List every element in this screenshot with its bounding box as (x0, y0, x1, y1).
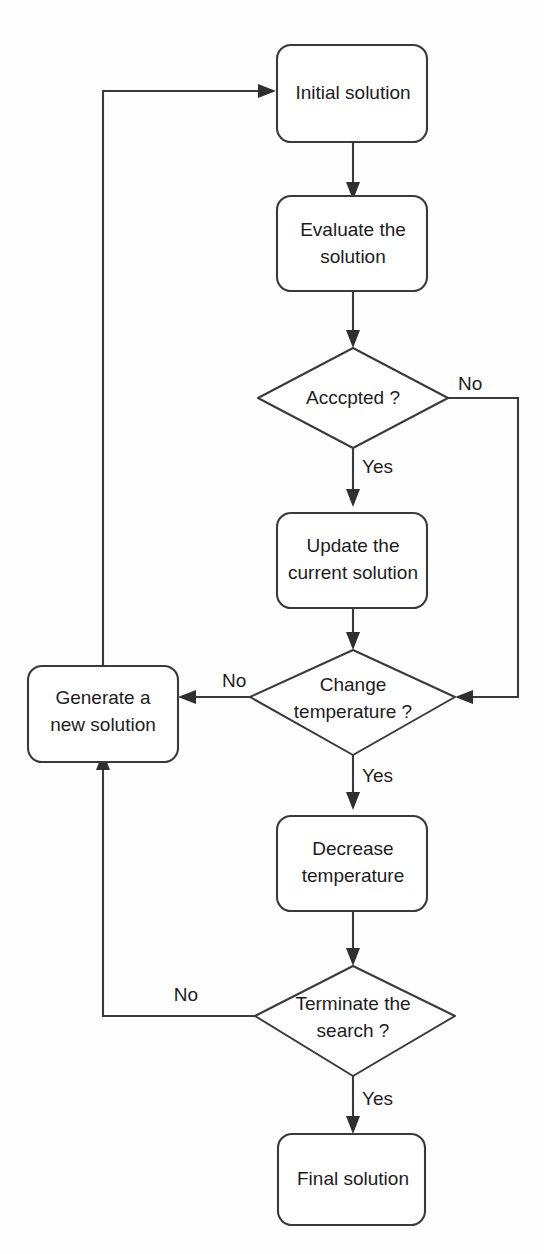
arrowhead-icon (178, 690, 196, 704)
edge-initial-to-evaluate (346, 142, 360, 200)
final-solution-label: Final solution (297, 1168, 409, 1189)
arrowhead-icon (346, 489, 360, 507)
change-temperature-decision-label-line1: Change (320, 674, 387, 695)
evaluate-solution-label-line2: solution (320, 246, 386, 267)
edge-evaluate-to-accepted (346, 291, 360, 348)
accepted-decision-label: Acccpted ? (306, 387, 400, 408)
update-current-solution-box[interactable] (277, 513, 427, 608)
edge-change-temperature-no-to-generate (178, 690, 250, 704)
edge-label-terminate-yes: Yes (362, 1088, 393, 1109)
edge-terminate-yes-to-final (346, 1076, 360, 1134)
evaluate-solution-label-line1: Evaluate the (300, 219, 406, 240)
node-generate-new-solution[interactable]: Generate a new solution (28, 666, 178, 762)
arrowhead-icon (346, 792, 360, 810)
arrowhead-icon (346, 330, 360, 348)
node-decrease-temperature[interactable]: Decrease temperature (277, 816, 427, 911)
edge-accepted-yes-to-update (346, 448, 360, 507)
decrease-temperature-label-line1: Decrease (312, 838, 393, 859)
edge-change-temperature-yes-to-decrease (346, 755, 360, 810)
evaluate-solution-box[interactable] (277, 196, 427, 291)
generate-new-solution-label-line1: Generate a (55, 687, 150, 708)
node-accepted-decision[interactable]: Acccpted ? (258, 348, 448, 448)
edge-label-terminate-no: No (174, 984, 198, 1005)
edge-label-change-temperature-yes: Yes (362, 765, 393, 786)
node-change-temperature-decision[interactable]: Change temperature ? (250, 650, 455, 755)
node-evaluate-solution[interactable]: Evaluate the solution (277, 196, 427, 291)
node-final-solution[interactable]: Final solution (278, 1134, 425, 1225)
flowchart-canvas: Update the current solution --> right lo… (0, 0, 544, 1254)
arrowhead-icon (346, 1116, 360, 1134)
terminate-search-decision-label-line2: search ? (317, 1020, 390, 1041)
update-current-solution-label-line2: current solution (288, 562, 418, 583)
edge-terminate-no-to-generate (96, 752, 255, 1016)
edge-accepted-no-to-change-temperature (448, 398, 518, 704)
flowchart-svg: Update the current solution --> right lo… (0, 0, 544, 1254)
generate-new-solution-label-line2: new solution (50, 714, 156, 735)
arrowhead-icon (455, 690, 473, 704)
node-terminate-search-decision[interactable]: Terminate the search ? (255, 966, 455, 1076)
edge-label-change-temperature-no: No (222, 670, 246, 691)
arrowhead-icon (258, 84, 276, 98)
edge-generate-to-initial (103, 84, 276, 666)
update-current-solution-label-line1: Update the (307, 535, 400, 556)
node-update-current-solution[interactable]: Update the current solution (277, 513, 427, 608)
initial-solution-label: Initial solution (295, 82, 410, 103)
edge-update-to-change-temperature (346, 608, 360, 650)
decrease-temperature-label-line2: temperature (302, 865, 404, 886)
edge-label-accepted-no: No (458, 373, 482, 394)
arrowhead-icon (346, 948, 360, 966)
decrease-temperature-box[interactable] (277, 816, 427, 911)
arrowhead-icon (346, 632, 360, 650)
terminate-search-decision-label-line1: Terminate the (295, 993, 410, 1014)
edge-label-accepted-yes: Yes (362, 456, 393, 477)
edge-decrease-to-terminate (346, 911, 360, 966)
node-initial-solution[interactable]: Initial solution (277, 45, 427, 142)
change-temperature-decision-label-line2: temperature ? (294, 701, 412, 722)
